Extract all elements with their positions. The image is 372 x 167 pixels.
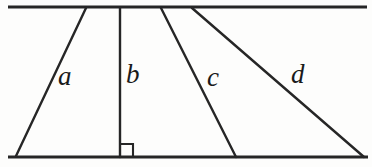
right-angle-marker-icon	[120, 144, 133, 157]
segment-c-label: c	[207, 64, 219, 91]
segment-a-line	[16, 8, 86, 156]
segment-c-line	[161, 8, 236, 157]
segment-b-label: b	[126, 61, 140, 88]
segment-d-label: d	[291, 61, 305, 88]
geometry-figure: a b c d	[0, 0, 372, 167]
segment-a-label: a	[58, 63, 72, 90]
geometry-canvas	[0, 0, 372, 167]
